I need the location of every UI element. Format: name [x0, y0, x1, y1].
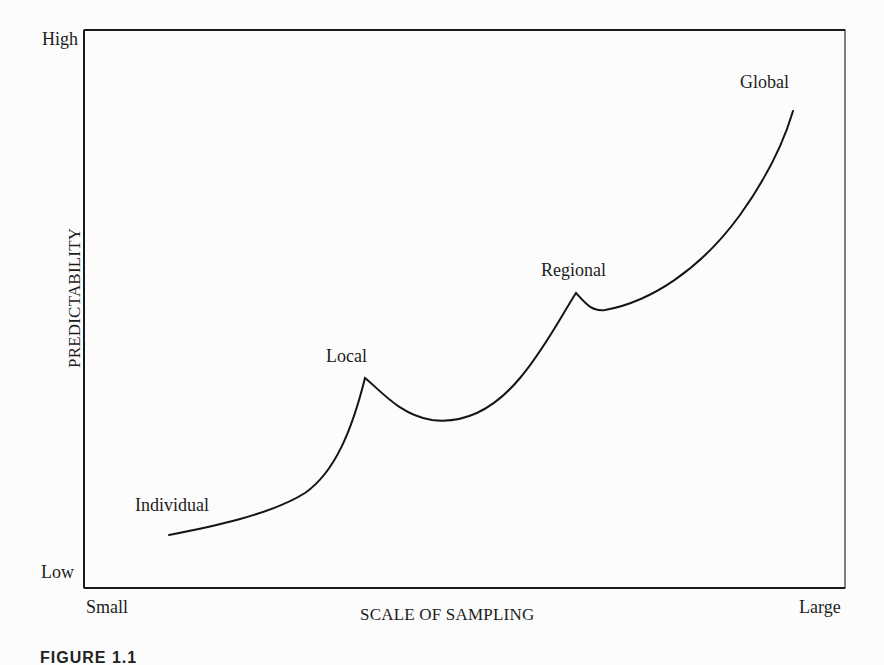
predictability-curve [169, 111, 793, 535]
annotation-individual: Individual [135, 496, 209, 514]
annotation-global: Global [740, 73, 789, 91]
x-axis-large-label: Large [799, 598, 841, 616]
x-axis-title: SCALE OF SAMPLING [360, 606, 534, 623]
y-axis-low-label: Low [41, 563, 74, 581]
figure-page: High Low Small Large SCALE OF SAMPLING P… [0, 0, 884, 665]
y-axis-title: PREDICTABILITY [66, 228, 83, 368]
y-axis-high-label: High [42, 30, 78, 48]
annotation-regional: Regional [541, 261, 606, 279]
predictability-scale-diagram [0, 0, 884, 665]
x-axis-small-label: Small [86, 598, 128, 616]
annotation-local: Local [326, 347, 367, 365]
figure-caption: FIGURE 1.1 [40, 650, 137, 665]
